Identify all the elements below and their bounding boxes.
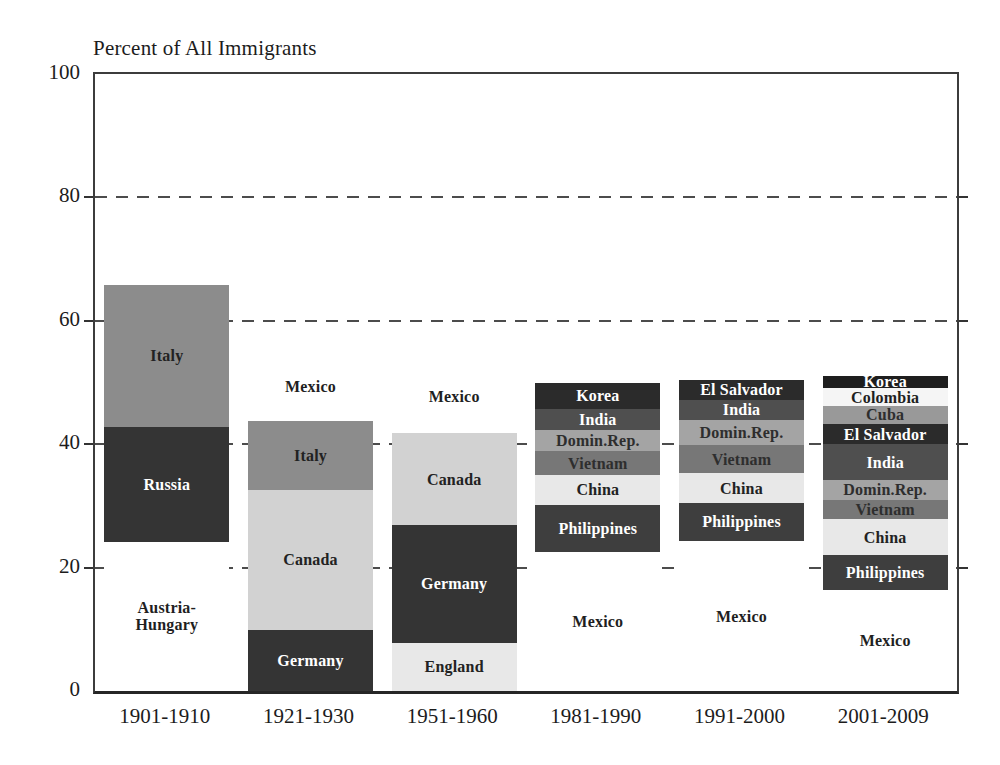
axis-tick-right-80: [959, 196, 968, 198]
segment-2001-2009-vietnam: Vietnam: [823, 500, 948, 519]
segment-label-india: India: [579, 411, 616, 428]
axis-tick-right-40: [959, 443, 968, 445]
segment-label-england: England: [425, 658, 484, 675]
segment-label-domin-rep: Domin.Rep.: [843, 481, 927, 498]
segment-label-austria-hungary: Austria- Hungary: [135, 599, 198, 633]
y-tick-label-40: 40: [10, 431, 80, 453]
x-tick-label-2001-2009: 2001-2009: [813, 704, 953, 728]
segment-1991-2000-domin-rep: Domin.Rep.: [679, 420, 804, 445]
segment-1921-1930-mexico: Mexico: [248, 352, 373, 421]
segment-label-korea: Korea: [576, 387, 619, 404]
segment-1981-1990-china: China: [535, 475, 660, 505]
segment-2001-2009-domin-rep: Domin.Rep.: [823, 480, 948, 500]
segment-1991-2000-vietnam: Vietnam: [679, 445, 804, 473]
plot-area: Austria- HungaryRussiaItalyGermanyCanada…: [93, 72, 959, 694]
segment-2001-2009-colombia: Colombia: [823, 388, 948, 406]
segment-label-canada: Canada: [427, 471, 482, 488]
segment-label-india: India: [866, 454, 903, 471]
segment-label-domin-rep: Domin.Rep.: [556, 432, 640, 449]
segment-label-china: China: [720, 480, 763, 497]
segment-label-mexico: Mexico: [860, 632, 911, 649]
segment-label-china: China: [864, 529, 907, 546]
axis-tick-left-80: [84, 196, 93, 198]
y-tick-label-60: 60: [10, 308, 80, 330]
x-tick-label-1981-1990: 1981-1990: [526, 704, 666, 728]
segment-label-russia: Russia: [144, 476, 191, 493]
segment-2001-2009-china: China: [823, 519, 948, 555]
segment-1981-1990-mexico: Mexico: [535, 552, 660, 691]
segment-1991-2000-mexico: Mexico: [679, 541, 804, 691]
segment-label-philippines: Philippines: [846, 564, 925, 581]
y-tick-label-80: 80: [10, 184, 80, 206]
segment-label-vietnam: Vietnam: [568, 455, 627, 472]
segment-2001-2009-mexico: Mexico: [823, 590, 948, 691]
segment-1981-1990-korea: Korea: [535, 383, 660, 410]
x-tick-label-1951-1960: 1951-1960: [382, 704, 522, 728]
segment-label-colombia: Colombia: [851, 389, 919, 406]
segment-label-domin-rep: Domin.Rep.: [700, 424, 784, 441]
axis-tick-left-60: [84, 320, 93, 322]
axis-tick-left-40: [84, 443, 93, 445]
segment-2001-2009-el-salvador: El Salvador: [823, 424, 948, 444]
x-tick-label-1901-1910: 1901-1910: [95, 704, 235, 728]
segment-label-canada: Canada: [283, 551, 338, 568]
segment-1981-1990-vietnam: Vietnam: [535, 451, 660, 475]
y-tick-label-0: 0: [10, 678, 80, 700]
segment-label-vietnam: Vietnam: [712, 451, 771, 468]
segment-1921-1930-italy: Italy: [248, 421, 373, 489]
y-tick-label-20: 20: [10, 555, 80, 577]
segment-1951-1960-germany: Germany: [392, 525, 517, 643]
segment-label-cuba: Cuba: [866, 406, 904, 423]
segment-1951-1960-england: England: [392, 643, 517, 691]
segment-1921-1930-germany: Germany: [248, 630, 373, 691]
segment-1951-1960-canada: Canada: [392, 433, 517, 525]
segment-1991-2000-el-salvador: El Salvador: [679, 380, 804, 400]
segment-label-mexico: Mexico: [285, 378, 336, 395]
segment-label-germany: Germany: [421, 575, 487, 592]
segment-label-italy: Italy: [294, 447, 327, 464]
segment-1951-1960-mexico: Mexico: [392, 360, 517, 433]
segment-label-el-salvador: El Salvador: [844, 426, 927, 443]
segment-1991-2000-india: India: [679, 400, 804, 420]
segment-2001-2009-korea: Korea: [823, 376, 948, 388]
segment-label-korea: Korea: [863, 373, 906, 390]
segment-1981-1990-philippines: Philippines: [535, 505, 660, 552]
segment-1921-1930-canada: Canada: [248, 490, 373, 630]
segment-1901-1910-austria-hungary: Austria- Hungary: [104, 542, 229, 691]
segment-label-philippines: Philippines: [558, 520, 637, 537]
segment-label-italy: Italy: [150, 347, 183, 364]
segment-1991-2000-philippines: Philippines: [679, 503, 804, 541]
segment-1991-2000-china: China: [679, 473, 804, 503]
x-tick-label-1921-1930: 1921-1930: [239, 704, 379, 728]
segment-1981-1990-domin-rep: Domin.Rep.: [535, 430, 660, 451]
segment-label-philippines: Philippines: [702, 513, 781, 530]
chart-title: Percent of All Immigrants: [93, 36, 317, 61]
axis-tick-right-20: [959, 567, 968, 569]
segment-2001-2009-philippines: Philippines: [823, 555, 948, 590]
segment-label-vietnam: Vietnam: [855, 501, 914, 518]
segment-1901-1910-italy: Italy: [104, 285, 229, 427]
axis-tick-right-60: [959, 320, 968, 322]
gridline-80: [95, 196, 957, 198]
segment-1901-1910-russia: Russia: [104, 427, 229, 542]
segment-1981-1990-india: India: [535, 409, 660, 430]
segment-label-mexico: Mexico: [716, 608, 767, 625]
segment-label-china: China: [576, 481, 619, 498]
segment-label-mexico: Mexico: [429, 388, 480, 405]
segment-2001-2009-india: India: [823, 444, 948, 480]
segment-label-el-salvador: El Salvador: [700, 381, 783, 398]
segment-label-india: India: [723, 401, 760, 418]
segment-label-mexico: Mexico: [572, 613, 623, 630]
segment-2001-2009-cuba: Cuba: [823, 406, 948, 424]
y-tick-label-100: 100: [10, 61, 80, 83]
segment-label-germany: Germany: [277, 652, 343, 669]
x-tick-label-1991-2000: 1991-2000: [670, 704, 810, 728]
chart: Percent of All Immigrants Austria- Hunga…: [0, 0, 1000, 765]
axis-tick-left-20: [84, 567, 93, 569]
